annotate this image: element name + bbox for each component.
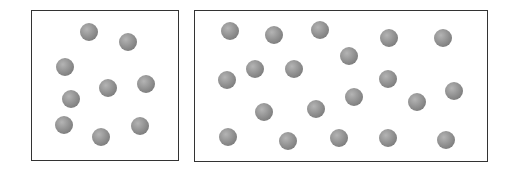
particle-icon: [255, 103, 273, 121]
particle-icon: [131, 117, 149, 135]
particle-icon: [137, 75, 155, 93]
particle-icon: [285, 60, 303, 78]
particle-icon: [311, 21, 329, 39]
particle-icon: [119, 33, 137, 51]
particle-icon: [221, 22, 239, 40]
particle-icon: [445, 82, 463, 100]
particle-icon: [62, 90, 80, 108]
particle-icon: [434, 29, 452, 47]
particle-icon: [279, 132, 297, 150]
particle-icon: [246, 60, 264, 78]
particle-icon: [56, 58, 74, 76]
particle-icon: [307, 100, 325, 118]
particle-icon: [219, 128, 237, 146]
particle-icon: [330, 129, 348, 147]
particle-icon: [380, 29, 398, 47]
particle-icon: [80, 23, 98, 41]
particle-icon: [408, 93, 426, 111]
particle-icon: [55, 116, 73, 134]
particle-icon: [345, 88, 363, 106]
particle-icon: [437, 131, 455, 149]
particle-icon: [379, 129, 397, 147]
particle-icon: [218, 71, 236, 89]
particle-icon: [340, 47, 358, 65]
particle-icon: [92, 128, 110, 146]
particle-icon: [265, 26, 283, 44]
particle-icon: [99, 79, 117, 97]
particle-icon: [379, 70, 397, 88]
